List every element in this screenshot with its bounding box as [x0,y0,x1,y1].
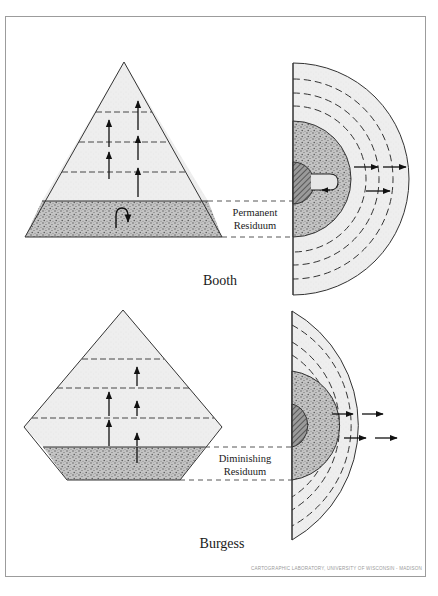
booth-city-model [293,63,409,295]
burgess-residuum-label-line1: Diminishing [219,453,272,464]
booth-city-uturn-lobe [311,174,338,190]
burgess-pyramid-residuum-band [43,447,205,480]
booth-residuum-label-line2: Residuum [234,220,277,231]
booth-pyramid-upper [42,62,208,201]
booth-panel: Permanent Residuum Booth [25,62,409,295]
burgess-title: Burgess [200,536,245,551]
burgess-panel: Diminishing Residuum Burgess [24,310,397,551]
burgess-residuum-label-line2: Residuum [224,466,267,477]
burgess-pyramid [24,310,222,480]
burgess-pyramid-upper [24,310,222,447]
credit-line: CARTOGRAPHIC LABORATORY, UNIVERSITY OF W… [251,566,422,571]
booth-residuum-label-line1: Permanent [233,207,278,218]
booth-pyramid [25,62,222,237]
booth-title: Booth [203,273,237,288]
burgess-city-model [292,311,397,540]
booth-pyramid-residuum-band [25,201,222,237]
diagram-canvas: Permanent Residuum Booth [0,0,438,596]
